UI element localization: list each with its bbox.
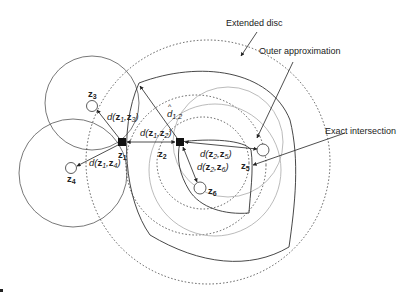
gray-disc-z5 (173, 87, 283, 197)
label-d14: d(z1,z4) (89, 157, 121, 169)
label-d13: d(z1,z3) (107, 111, 139, 123)
node-z4-marker (66, 163, 77, 174)
label-exact-intersection: Exact intersection (325, 126, 396, 136)
label-d25: d(z2,z5) (200, 148, 232, 160)
node-z6-marker (194, 182, 206, 194)
pointer-extended-disc (241, 32, 257, 56)
node-z2-marker (176, 138, 184, 146)
exact-intersection-region (178, 140, 252, 213)
node-z5-marker (257, 144, 269, 156)
node-z1-marker (118, 138, 126, 146)
label-z3: z3 (88, 88, 97, 100)
label-z4: z4 (67, 173, 76, 185)
label-z5: z5 (241, 160, 250, 172)
label-outer-approximation: Outer approximation (259, 46, 341, 56)
node-z3-marker (87, 101, 98, 112)
intersection-diagram: Extended disc Outer approximation Exact … (0, 0, 413, 293)
label-z6: z6 (208, 185, 217, 197)
label-z2: z2 (158, 148, 167, 160)
pointer-outer-approximation (257, 62, 293, 138)
label-d26: d(z2,z6) (197, 161, 229, 173)
label-extended-disc: Extended disc (226, 18, 283, 28)
corner-mark (0, 289, 3, 292)
label-d12: d(z1,z2) (140, 127, 172, 139)
